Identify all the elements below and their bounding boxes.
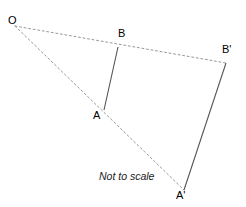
segment-ab: [104, 47, 118, 110]
diagram-canvas: O B B' A A' Not to scale: [0, 0, 246, 207]
vertex-label-b-prime: B': [222, 44, 231, 55]
segment-aprime-bprime: [184, 63, 226, 190]
vertex-label-a: A: [93, 110, 100, 121]
not-to-scale-caption: Not to scale: [99, 171, 154, 182]
vertex-label-a-prime: A': [176, 190, 185, 201]
vertex-label-o: O: [8, 15, 17, 26]
vertex-label-b: B: [118, 28, 125, 39]
ray-o-a-aprime: [15, 26, 184, 190]
